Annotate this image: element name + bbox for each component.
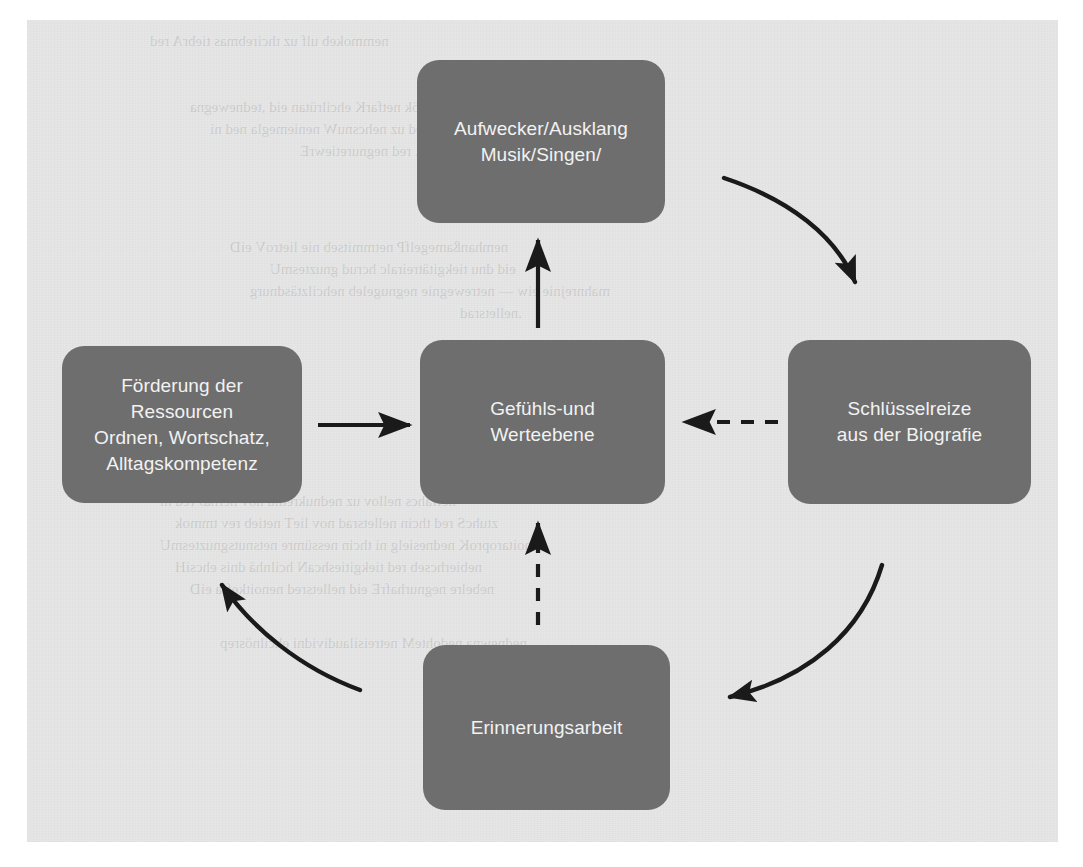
- node-label-line: Werteebene: [490, 422, 594, 448]
- node-label-line: Erinnerungsarbeit: [471, 715, 623, 741]
- node-label-line: Aufwecker/Ausklang: [454, 116, 628, 142]
- node-gefuehls-und-werteebene[interactable]: Gefühls-und Werteebene: [420, 340, 665, 504]
- page-canvas: nemmokeb ulf uz thcirebmas tiebrA red ne…: [0, 0, 1083, 867]
- node-label-line: Förderung der: [121, 373, 243, 399]
- node-label-line: Musik/Singen/: [481, 142, 602, 168]
- node-label-line: Alltagskompetenz: [106, 451, 258, 477]
- node-label-line: Ressourcen: [131, 399, 233, 425]
- connection-right-to-bottom: [730, 565, 882, 697]
- node-schluesselreize-aus-der-biografie[interactable]: Schlüsselreize aus der Biografie: [788, 340, 1031, 504]
- connection-bottom-to-left: [222, 585, 360, 690]
- node-label-line: Ordnen, Wortschatz,: [94, 425, 270, 451]
- node-foerderung-der-ressourcen[interactable]: Förderung der Ressourcen Ordnen, Wortsch…: [62, 346, 302, 503]
- node-label-line: Schlüsselreize: [848, 396, 972, 422]
- node-aufwecker-ausklang[interactable]: Aufwecker/Ausklang Musik/Singen/: [417, 60, 665, 223]
- node-label-line: Gefühls-und: [490, 396, 595, 422]
- node-label-line: aus der Biografie: [837, 422, 982, 448]
- connection-top-to-right: [724, 178, 855, 282]
- node-erinnerungsarbeit[interactable]: Erinnerungsarbeit: [423, 645, 670, 810]
